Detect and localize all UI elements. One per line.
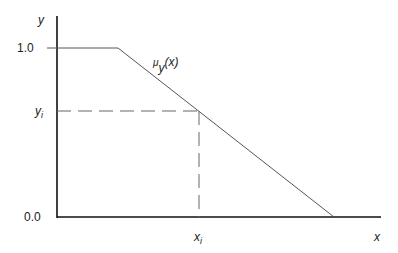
curve-label: μy(x) bbox=[152, 55, 178, 75]
membership-function-chart: y 1.0 0.0 yi xi x μy(x) bbox=[0, 0, 398, 253]
y-tick-label-1: 1.0 bbox=[17, 41, 34, 55]
membership-curve bbox=[57, 48, 334, 217]
y-axis-label: y bbox=[37, 13, 45, 27]
y-tick-label-0: 0.0 bbox=[24, 210, 41, 224]
x-axis-label: x bbox=[373, 230, 381, 244]
yi-label: yi bbox=[34, 104, 44, 120]
xi-label: xi bbox=[193, 230, 203, 246]
